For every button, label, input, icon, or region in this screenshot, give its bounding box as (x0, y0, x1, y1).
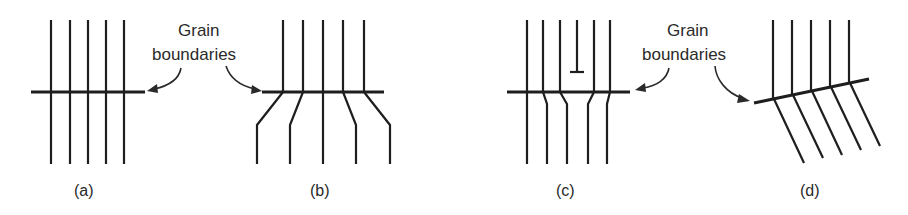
callout-left-line1: Grain (178, 21, 220, 40)
callout-right-line1: Grain (667, 21, 709, 40)
arrow-to-d-icon (715, 66, 742, 98)
callout-left-line2: boundaries (152, 45, 236, 64)
caption-a: (a) (74, 182, 94, 199)
arrow-to-c-icon (643, 68, 669, 88)
arrowhead-d-icon (737, 94, 750, 103)
caption-d: (d) (800, 182, 820, 199)
caption-b: (b) (310, 182, 330, 199)
arrow-to-b-icon (226, 66, 255, 89)
arrowhead-b-icon (251, 85, 262, 94)
panel-d: (d) (754, 20, 880, 199)
callout-right-line2: boundaries (642, 45, 726, 64)
callout-right: Grain boundaries (635, 21, 750, 103)
arrow-to-a-icon (154, 68, 181, 89)
caption-c: (c) (556, 182, 575, 199)
grain-boundary-diagram: (a) Grain boundaries (b) (c) Grain bound… (0, 0, 908, 215)
panel-b: (b) (257, 20, 390, 199)
callout-left: Grain boundaries (147, 21, 262, 94)
arrowhead-a-icon (147, 84, 158, 93)
panel-a: (a) (31, 20, 145, 199)
panel-c: (c) (507, 20, 630, 199)
arrowhead-c-icon (635, 83, 646, 92)
